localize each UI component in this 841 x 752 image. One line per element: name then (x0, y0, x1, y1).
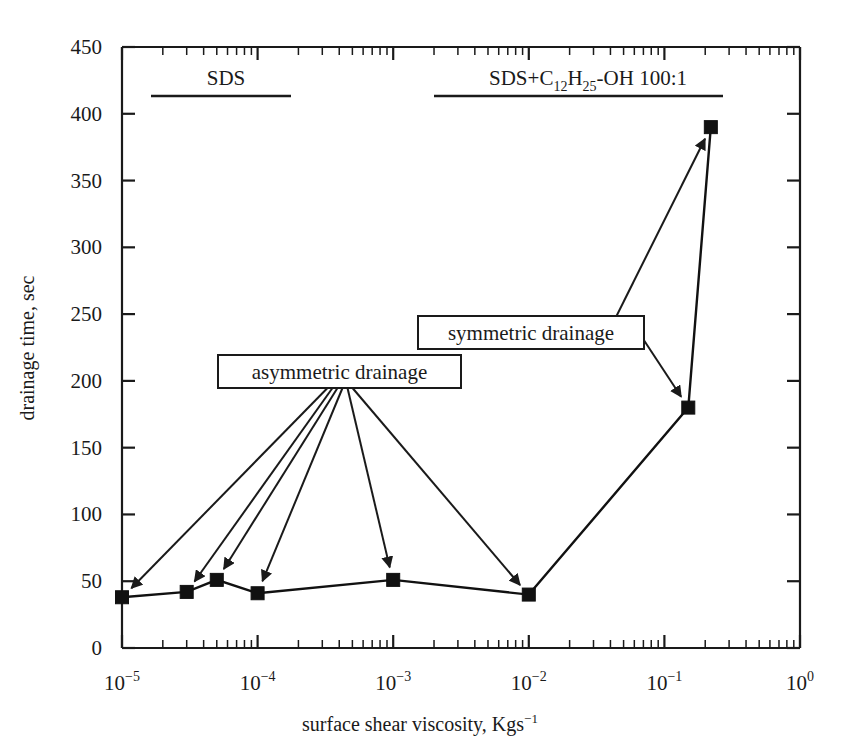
annotation-symmetric-drainage: symmetric drainage (418, 316, 644, 349)
y-tick-label-450: 450 (71, 35, 103, 59)
y-tick-label-200: 200 (71, 369, 103, 393)
data-point-marker (251, 587, 264, 600)
leader-asymmetric-4 (348, 388, 390, 567)
data-point-marker (704, 121, 717, 134)
y-tick-label-300: 300 (71, 235, 103, 259)
leader-asymmetric-2 (224, 388, 338, 569)
grp-suffix: -OH 100:1 (597, 66, 687, 90)
group-label-sds-dodecanol: SDS+C12H25-OH 100:1 (434, 66, 723, 96)
grp-prefix: SDS+C (489, 66, 553, 90)
group-label-sds-dodecanol-text: SDS+C12H25-OH 100:1 (489, 66, 687, 94)
x-tick-label--1: 10−1 (646, 669, 682, 695)
annotation-label-asymmetric: asymmetric drainage (252, 360, 428, 384)
y-axis-tick-labels: 050100150200250300350400450 (71, 35, 103, 660)
group-label-sds: SDS (151, 66, 291, 96)
data-point-marker (522, 588, 535, 601)
group-label-sds-text: SDS (207, 66, 246, 90)
y-tick-label-100: 100 (71, 502, 103, 526)
x-tick-label--3: 10−3 (375, 669, 411, 695)
grp-sub-25: 25 (583, 79, 597, 94)
x-axis-tick-labels: 10−510−410−310−210−1100 (104, 669, 814, 695)
y-tick-label-150: 150 (71, 436, 103, 460)
x-tick-label--5: 10−5 (104, 669, 140, 695)
x-tick-label--4: 10−4 (240, 669, 276, 695)
drainage-time-chart: 10−510−410−310−210−1100 0501001502002503… (0, 0, 841, 752)
leader-asymmetric-3 (262, 388, 342, 581)
data-point-marker (180, 585, 193, 598)
y-tick-label-250: 250 (71, 302, 103, 326)
leader-asymmetric-1 (195, 388, 333, 582)
x-tick-label-0: 100 (786, 669, 814, 695)
y-tick-label-400: 400 (71, 102, 103, 126)
annotation-label-symmetric: symmetric drainage (448, 321, 614, 345)
x-axis-title: surface shear viscosity, Kgs−1 (302, 711, 538, 736)
x-axis-title-exponent: −1 (524, 711, 538, 726)
grp-sub-12: 12 (553, 79, 567, 94)
y-tick-label-0: 0 (92, 636, 103, 660)
data-point-marker (682, 401, 695, 414)
data-point-marker (116, 591, 129, 604)
figure-container: 10−510−410−310−210−1100 0501001502002503… (0, 0, 841, 752)
leader-asymmetric-5 (353, 388, 521, 585)
x-tick-label--2: 10−2 (511, 669, 547, 695)
annotation-asymmetric-drainage: asymmetric drainage (218, 355, 461, 388)
data-point-marker (210, 573, 223, 586)
x-axis-title-base: surface shear viscosity, Kgs (302, 713, 524, 736)
grp-mid-h: H (567, 66, 582, 90)
y-tick-label-50: 50 (81, 569, 102, 593)
y-axis-title: drainage time, sec (16, 275, 39, 420)
data-point-marker (387, 573, 400, 586)
y-tick-label-350: 350 (71, 169, 103, 193)
